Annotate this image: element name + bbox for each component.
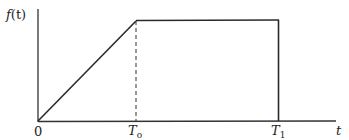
t1-tick-label: T1 xyxy=(271,124,285,140)
t1-subscript: 1 xyxy=(280,130,286,140)
t0-label: T xyxy=(128,123,137,138)
ramp-segment xyxy=(38,21,136,121)
function-plot xyxy=(0,0,349,140)
x-axis-label: t xyxy=(336,124,341,137)
y-axis-label-arg: (t) xyxy=(11,7,26,22)
x-axis-label-t: t xyxy=(336,123,341,138)
t0-tick-label: To xyxy=(128,124,142,140)
origin-tick-label: 0 xyxy=(34,125,42,138)
y-axis-label: f(t) xyxy=(6,8,26,21)
t1-label: T xyxy=(271,123,280,138)
plateau-segment xyxy=(136,20,279,21)
origin-label: 0 xyxy=(34,124,42,139)
t0-subscript: o xyxy=(137,130,142,140)
x-axis xyxy=(38,121,336,122)
